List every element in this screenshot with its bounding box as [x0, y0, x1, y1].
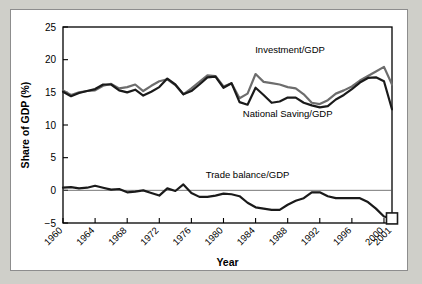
x-tick-label-1968: 1968	[106, 225, 129, 248]
x-tick-label-1972: 1972	[138, 225, 161, 248]
x-tick-label-1988: 1988	[266, 225, 289, 248]
annotation-investment-gdp: Investment/GDP	[255, 44, 325, 55]
y-tick-label-5: 5	[50, 152, 56, 163]
annotation-national-saving-gdp: National Saving/GDP	[243, 108, 333, 119]
x-tick-label-1976: 1976	[170, 225, 193, 248]
x-axis-title: Year	[216, 256, 238, 268]
x-tick-label-1992: 1992	[298, 225, 321, 248]
y-tick-label-25: 25	[45, 22, 57, 33]
y-tick-label-10: 10	[45, 120, 57, 131]
y-tick-label-15: 15	[45, 87, 57, 98]
y-tick-label-0: 0	[50, 185, 56, 196]
x-tick-label-1984: 1984	[234, 225, 257, 248]
projection-endpoint-marker	[387, 213, 398, 224]
x-tick-label-1996: 1996	[331, 225, 354, 248]
chart-plot-area: −505101520251960196419681972197619801984…	[11, 10, 409, 272]
x-tick-label-1964: 1964	[74, 225, 97, 248]
annotation-trade-balance-gdp: Trade balance/GDP	[206, 169, 290, 180]
chart-card: −505101520251960196419681972197619801984…	[10, 9, 408, 271]
y-tick-label-20: 20	[45, 54, 57, 65]
x-tick-label-1980: 1980	[202, 225, 225, 248]
image-background: −505101520251960196419681972197619801984…	[0, 0, 422, 284]
economic-shares-line-chart: −505101520251960196419681972197619801984…	[11, 10, 409, 272]
y-axis-title: Share of GDP (%)	[19, 82, 31, 169]
